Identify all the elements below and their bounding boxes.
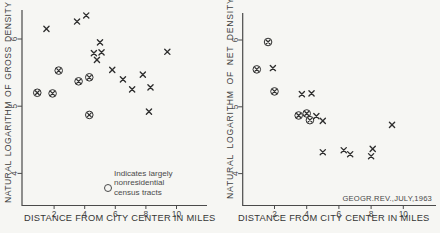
point-marker-circled-x (35, 91, 39, 95)
legend-line: Indicates largely (114, 169, 173, 178)
legend: Indicates largely nonresidential census … (114, 169, 173, 197)
point-marker-x (99, 50, 104, 55)
point-marker-x (389, 122, 394, 127)
point-marker-x (314, 114, 319, 119)
point-marker-circled-x (87, 113, 91, 117)
point-marker-x (140, 72, 145, 77)
point-marker-x (94, 57, 99, 62)
point-marker-circled-x (77, 79, 81, 83)
point-marker-circled-x (308, 118, 312, 122)
left-y-axis-title: NATURAL LOGARITHM OF GROSS DENSITY (3, 2, 13, 203)
legend-line: nonresidential (114, 178, 173, 187)
point-marker-circled-x (266, 40, 270, 44)
point-marker-circled-x (255, 67, 259, 71)
point-marker-x (369, 154, 374, 159)
point-marker-x (91, 51, 96, 56)
point-marker-x (110, 67, 115, 72)
point-marker-x (97, 40, 102, 45)
point-marker-x (146, 109, 151, 114)
point-marker-circled-x (51, 91, 55, 95)
point-marker-circled-x (273, 89, 277, 93)
point-marker-x (320, 150, 325, 155)
point-marker-circled-x (87, 75, 91, 79)
point-marker-x (130, 87, 135, 92)
point-marker-x (348, 152, 353, 157)
right-x-axis-title: DISTANCE FROM CITY CENTER IN MILES (238, 213, 428, 223)
nonresidential-legend-circle-icon (104, 184, 112, 192)
point-marker-x (84, 13, 89, 18)
point-marker-x (370, 146, 375, 151)
point-marker-x (309, 91, 314, 96)
point-marker-circled-x (305, 111, 309, 115)
point-marker-x (270, 65, 275, 70)
right-y-axis-title: NATURAL LOGARITHM OF NET DENSITY (225, 0, 235, 199)
left-x-axis-title: DISTANCE FROM CITY CENTER IN MILES (24, 213, 206, 223)
source-citation: GEOGR.REV.,JULY,1963 (328, 194, 432, 203)
point-marker-x (120, 77, 125, 82)
point-marker-x (148, 85, 153, 90)
density-distance-scatter-figure: 246810456246810456 NATURAL LOGARITHM OF … (0, 0, 440, 233)
legend-line: census tracts (114, 188, 173, 197)
point-marker-circled-x (297, 113, 301, 117)
point-marker-x (44, 26, 49, 31)
point-marker-x (165, 49, 170, 54)
point-marker-x (341, 148, 346, 153)
point-marker-circled-x (57, 69, 61, 73)
point-marker-x (320, 118, 325, 123)
point-marker-x (299, 92, 304, 97)
point-marker-x (74, 19, 79, 24)
